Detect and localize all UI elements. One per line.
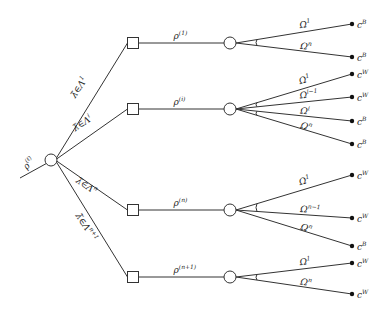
omega-label-4-1-superscript: 1 (306, 254, 311, 261)
omega-label-1-2-superscript: n (308, 40, 313, 47)
outcome-edge-4-1 (236, 263, 352, 277)
omega-label-3-1: Ω1 (296, 172, 311, 187)
terminal-dot-icon (350, 216, 354, 220)
state-label-1: ρ(1) (173, 29, 188, 41)
outcome-edge-4-2 (236, 277, 352, 294)
omega-label-3-2: Ωn−1 (299, 202, 321, 215)
outcome-label-2-1-superscript: W (362, 68, 369, 75)
outcome-edge-2-2 (236, 97, 352, 109)
information-set-tie-4-1 (256, 274, 257, 280)
outcome-label-4-2: cW (357, 288, 369, 300)
terminal-dot-icon (350, 119, 354, 123)
state-label-3: ρ(n) (173, 196, 189, 208)
decision-edge-2 (55, 109, 127, 160)
outcome-label-3-2: cW (357, 212, 369, 224)
terminal-dot-icon (350, 72, 354, 76)
edge-label-4-superscript: n+1 (88, 226, 101, 240)
omega-label-2-3: Ωi (299, 103, 311, 116)
outcome-label-2-1: cW (357, 68, 369, 80)
outcome-edge-2-1 (236, 74, 352, 109)
outcome-label-1-2-superscript: B (361, 51, 367, 58)
decision-edge-4 (55, 160, 127, 277)
terminal-dot-icon (350, 142, 354, 146)
outcome-label-3-3-superscript: B (361, 240, 367, 247)
state-label-2: ρ(i) (173, 95, 187, 107)
outcome-label-2-2: cW (357, 91, 369, 103)
outcome-label-4-1-superscript: W (362, 257, 369, 264)
omega-label-3-3-superscript: n (308, 222, 314, 230)
omega-label-4-2-superscript: n (308, 276, 313, 284)
omega-label-1-1-superscript: 1 (306, 17, 311, 25)
terminal-dot-icon (350, 22, 354, 26)
state-label-4: ρ(n+1) (173, 263, 197, 275)
outcome-label-1-1: cB (357, 18, 367, 30)
outcome-edge-3-1 (236, 175, 352, 210)
decision-node-3 (128, 205, 139, 216)
outcome-label-4-2-superscript: W (362, 288, 369, 295)
edge-label-3-base: λ̃∈Λ (73, 175, 96, 195)
omega-label-4-2: Ωn (299, 275, 313, 289)
omega-label-3-1-superscript: 1 (304, 172, 310, 180)
omega-label-2-4: Ωn (298, 118, 313, 133)
outcome-label-1-1-superscript: B (361, 18, 367, 25)
chance-node-3 (224, 204, 236, 216)
omega-label-2-1-superscript: 1 (304, 71, 310, 79)
outcome-label-2-4: cB (357, 138, 367, 150)
outcome-label-3-3: cB (357, 240, 367, 252)
outcome-label-3-1: cW (357, 169, 369, 181)
outcome-label-4-1: cW (357, 257, 369, 269)
edge-label-3: λ̃∈Λn (73, 173, 100, 196)
outcome-label-2-3: cB (357, 115, 367, 127)
omega-label-1-2: Ωn (299, 39, 313, 52)
omega-label-2-2-superscript: i−1 (306, 87, 317, 95)
decision-tree-diagram: ρ(ℓ)λ̃∈Λ1ρ(1)Ω1cBΩncBλ̃∈Λiρ(i)Ω1cWΩi−1cW… (0, 0, 387, 310)
decision-node-2 (128, 104, 139, 115)
information-set-tie-3-1 (256, 204, 257, 212)
omega-label-2-2: Ωi−1 (298, 87, 318, 101)
terminal-dot-icon (350, 244, 354, 248)
terminal-dot-icon (350, 95, 354, 99)
state-label-2-superscript: (i) (179, 95, 186, 102)
state-label-3-superscript: (n) (179, 196, 188, 203)
chance-node-1 (224, 37, 236, 49)
outcome-label-2-3-superscript: B (361, 115, 367, 122)
terminal-dot-icon (350, 261, 354, 265)
root-label: ρ(ℓ) (19, 154, 37, 173)
outcome-label-3-2-superscript: W (362, 212, 369, 219)
outcome-edge-3-2 (236, 210, 352, 218)
outcome-edge-3-3 (236, 210, 352, 246)
decision-node-1 (128, 38, 139, 49)
decision-edge-1 (55, 43, 127, 160)
information-set-tie-2-1 (256, 103, 257, 107)
chance-node-4 (224, 271, 236, 283)
state-label-4-superscript: (n+1) (179, 263, 197, 270)
edge-label-1: λ̃∈Λ1 (66, 74, 89, 100)
outcome-edge-2-3 (236, 109, 352, 121)
information-set-tie-1-1 (256, 40, 257, 46)
omega-label-2-3-superscript: i (308, 104, 311, 111)
outcome-edge-2-4 (236, 109, 352, 144)
root-node (45, 154, 57, 166)
tree-edges (20, 24, 352, 294)
outcome-edge-1-2 (236, 43, 352, 57)
tree-labels: ρ(ℓ)λ̃∈Λ1ρ(1)Ω1cBΩncBλ̃∈Λiρ(i)Ω1cWΩi−1cW… (19, 17, 369, 300)
decision-node-4 (128, 272, 139, 283)
chance-node-2 (224, 103, 236, 115)
omega-label-1-1: Ω1 (297, 17, 311, 31)
terminal-dot-icon (350, 292, 354, 296)
omega-label-4-1: Ω1 (298, 254, 312, 267)
outcome-label-2-2-superscript: W (362, 91, 369, 98)
terminal-dot-icon (350, 55, 354, 59)
state-label-1-superscript: (1) (179, 29, 188, 36)
omega-label-2-4-superscript: n (308, 120, 314, 128)
omega-label-2-1: Ω1 (296, 71, 311, 86)
outcome-label-1-2: cB (357, 51, 367, 63)
terminal-dot-icon (350, 173, 354, 177)
edge-label-1-base: λ̃∈Λ (68, 78, 88, 101)
edge-label-4: λ̃∈Λn+1 (73, 209, 101, 243)
information-set-tie-2-2 (256, 111, 257, 115)
outcome-edge-1-1 (236, 24, 352, 43)
omega-label-3-3: Ωn (298, 219, 313, 234)
outcome-label-3-1-superscript: W (362, 169, 369, 176)
outcome-label-2-4-superscript: B (361, 138, 367, 145)
